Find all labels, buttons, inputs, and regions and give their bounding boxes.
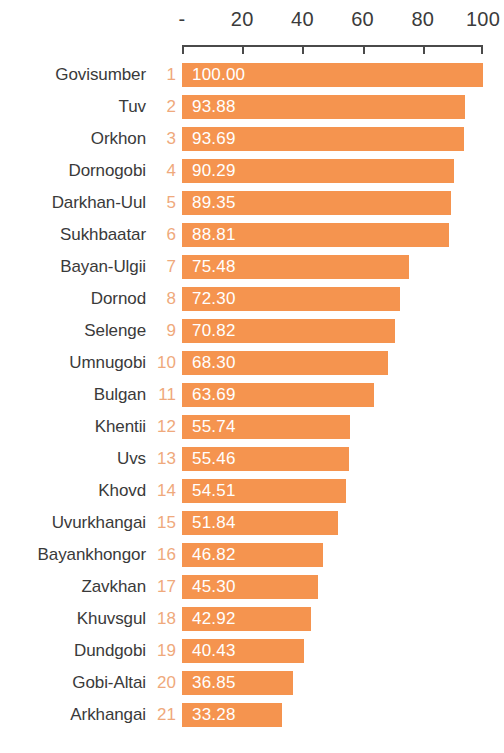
bar-category-label: Gobi-Altai	[0, 671, 146, 695]
bar-row: Govisumber1100.00	[0, 63, 499, 87]
bar-value-label: 51.84	[192, 511, 236, 535]
bar-category-label: Dornogobi	[0, 159, 146, 183]
bar-category-label: Bulgan	[0, 383, 146, 407]
bar-row: Khuvsgul1842.92	[0, 607, 499, 631]
bar-category-label: Bayan-Ulgii	[0, 255, 146, 279]
bar-value-label: 90.29	[192, 159, 236, 183]
bar-rank-label: 7	[150, 255, 176, 279]
bar-row: Bayankhongor1646.82	[0, 543, 499, 567]
bar-rank-label: 14	[150, 479, 176, 503]
bar-value-label: 42.92	[192, 607, 236, 631]
bar-category-label: Zavkhan	[0, 575, 146, 599]
bar-value-label: 88.81	[192, 223, 236, 247]
bar-category-label: Uvs	[0, 447, 146, 471]
bar-row: Selenge970.82	[0, 319, 499, 343]
bar-category-label: Uvurkhangai	[0, 511, 146, 535]
bar-row: Dornod872.30	[0, 287, 499, 311]
bar-rank-label: 19	[150, 639, 176, 663]
bar-value-label: 46.82	[192, 543, 236, 567]
bar-rank-label: 20	[150, 671, 176, 695]
bar-value-label: 93.88	[192, 95, 236, 119]
bar-category-label: Khuvsgul	[0, 607, 146, 631]
bar-rank-label: 17	[150, 575, 176, 599]
bar-row: Gobi-Altai2036.85	[0, 671, 499, 695]
bar-rank-label: 12	[150, 415, 176, 439]
bar-value-label: 72.30	[192, 287, 236, 311]
bar-rank-label: 11	[150, 383, 176, 407]
bar-rank-label: 18	[150, 607, 176, 631]
bar-category-label: Orkhon	[0, 127, 146, 151]
bar-category-label: Darkhan-Uul	[0, 191, 146, 215]
bar-category-label: Arkhangai	[0, 703, 146, 727]
bar-value-label: 100.00	[192, 63, 245, 87]
bar-value-label: 89.35	[192, 191, 236, 215]
bar-category-label: Sukhbaatar	[0, 223, 146, 247]
bar-row: Bayan-Ulgii775.48	[0, 255, 499, 279]
bar-row: Dundgobi1940.43	[0, 639, 499, 663]
bar-row: Tuv293.88	[0, 95, 499, 119]
bar-category-label: Umnugobi	[0, 351, 146, 375]
bar-category-label: Govisumber	[0, 63, 146, 87]
bar-value-label: 93.69	[192, 127, 236, 151]
bar-rank-label: 16	[150, 543, 176, 567]
bar-rank-label: 9	[150, 319, 176, 343]
bar-category-label: Dornod	[0, 287, 146, 311]
bar-row: Sukhbaatar688.81	[0, 223, 499, 247]
bar-category-label: Khentii	[0, 415, 146, 439]
bar-category-label: Tuv	[0, 95, 146, 119]
bar-value-label: 75.48	[192, 255, 236, 279]
bar-rank-label: 3	[150, 127, 176, 151]
bar-rank-label: 15	[150, 511, 176, 535]
bar-row: Khovd1454.51	[0, 479, 499, 503]
bar-rank-label: 10	[150, 351, 176, 375]
bar-rank-label: 13	[150, 447, 176, 471]
bar-row: Uvurkhangai1551.84	[0, 511, 499, 535]
bar-rank-label: 8	[150, 287, 176, 311]
bar-value-label: 55.46	[192, 447, 236, 471]
bar-rank-label: 1	[150, 63, 176, 87]
bar-row: Zavkhan1745.30	[0, 575, 499, 599]
bar-row: Khentii1255.74	[0, 415, 499, 439]
bar-row: Arkhangai2133.28	[0, 703, 499, 727]
bar-value-label: 33.28	[192, 703, 236, 727]
bar-value-label: 36.85	[192, 671, 236, 695]
bar-category-label: Bayankhongor	[0, 543, 146, 567]
bar-value-label: 55.74	[192, 415, 236, 439]
bar-row: Bulgan1163.69	[0, 383, 499, 407]
bar-rank-label: 2	[150, 95, 176, 119]
bar-category-label: Khovd	[0, 479, 146, 503]
bar-category-label: Selenge	[0, 319, 146, 343]
bar-rank-label: 21	[150, 703, 176, 727]
bar-value-label: 63.69	[192, 383, 236, 407]
bar-rank-label: 4	[150, 159, 176, 183]
bar-rank-label: 5	[150, 191, 176, 215]
bar-value-label: 54.51	[192, 479, 236, 503]
bar-category-label: Dundgobi	[0, 639, 146, 663]
bar-row: Darkhan-Uul589.35	[0, 191, 499, 215]
bar-value-label: 40.43	[192, 639, 236, 663]
bar-rank-label: 6	[150, 223, 176, 247]
bar-value-label: 45.30	[192, 575, 236, 599]
bar-value-label: 70.82	[192, 319, 236, 343]
bar-row: Dornogobi490.29	[0, 159, 499, 183]
bar-row: Uvs1355.46	[0, 447, 499, 471]
bar-row: Orkhon393.69	[0, 127, 499, 151]
bar-value-label: 68.30	[192, 351, 236, 375]
bar-row: Umnugobi1068.30	[0, 351, 499, 375]
